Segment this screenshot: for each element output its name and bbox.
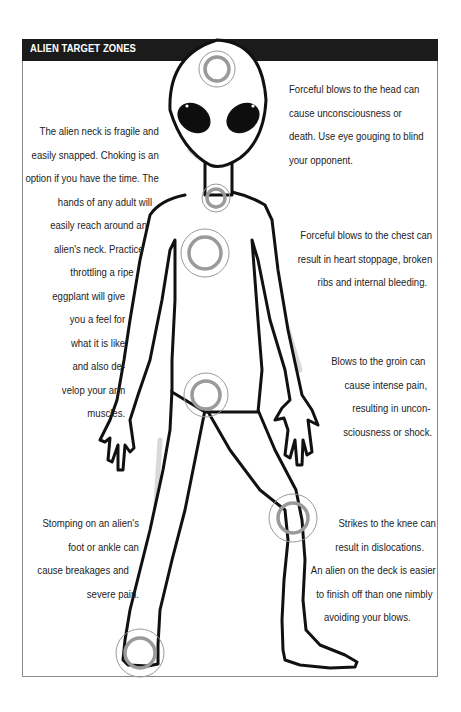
note-line: easily snapped. Choking is an: [26, 144, 159, 168]
note-line: Blows to the groin can: [331, 350, 432, 374]
note-foot: Stomping on an alien's foot or ankle can…: [37, 512, 139, 606]
note-line: and also de-: [26, 355, 159, 379]
note-line: you a feel for: [26, 308, 159, 332]
note-chest: Forceful blows to the chest can result i…: [297, 224, 432, 295]
note-line: option if you have the time. The: [26, 167, 159, 191]
note-line: The alien neck is fragile and: [26, 120, 159, 144]
note-line: severe pain.: [37, 583, 139, 607]
note-line: to finish off than one nimbly: [311, 583, 436, 607]
note-line: result in heart stoppage, broken: [297, 248, 432, 272]
note-line: cause breakages and: [37, 559, 139, 583]
note-line: cause unconsciousness or: [289, 102, 424, 126]
note-line: your opponent.: [289, 149, 424, 173]
note-line: An alien on the deck is easier: [311, 559, 436, 583]
note-line: cause intense pain,: [331, 374, 432, 398]
note-neck: The alien neck is fragile and easily sna…: [26, 120, 159, 426]
note-line: result in dislocations.: [311, 536, 436, 560]
note-line: Forceful blows to the head can: [289, 78, 424, 102]
note-line: hands of any adult will: [26, 191, 159, 215]
note-line: what it is like: [26, 332, 159, 356]
note-line: ribs and internal bleeding.: [297, 271, 432, 295]
note-line: eggplant will give: [26, 285, 159, 309]
note-line: death. Use eye gouging to blind: [289, 125, 424, 149]
note-line: alien's neck. Practice: [26, 238, 159, 262]
note-line: Forceful blows to the chest can: [297, 224, 432, 248]
note-line: foot or ankle can: [37, 536, 139, 560]
note-line: easily reach around an: [26, 214, 159, 238]
note-line: Strikes to the knee can: [311, 512, 436, 536]
note-line: avoiding your blows.: [311, 606, 436, 630]
note-groin: Blows to the groin can cause intense pai…: [331, 350, 432, 444]
note-line: Stomping on an alien's: [37, 512, 139, 536]
note-line: velop your arm: [26, 379, 159, 403]
note-head: Forceful blows to the head can cause unc…: [289, 78, 424, 172]
note-line: sciousness or shock.: [331, 421, 432, 445]
note-line: resulting in uncon-: [331, 397, 432, 421]
note-line: muscles.: [26, 402, 159, 426]
page-title: ALIEN TARGET ZONES: [30, 42, 136, 54]
note-knee: Strikes to the knee can result in disloc…: [311, 512, 436, 630]
note-line: throttling a ripe: [26, 261, 159, 285]
